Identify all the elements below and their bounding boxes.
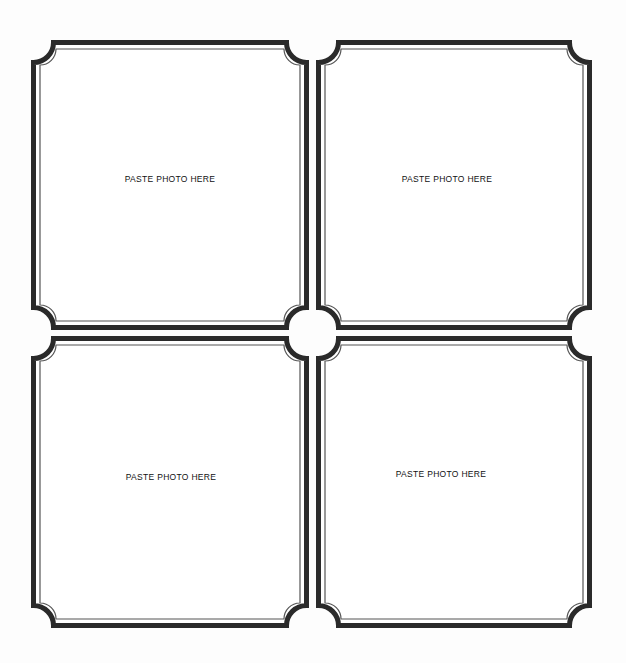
photo-frame-top-right[interactable]: PASTE PHOTO HERE [316, 40, 592, 330]
paste-photo-label: PASTE PHOTO HERE [125, 174, 215, 184]
photo-frame-top-left[interactable]: PASTE PHOTO HERE [31, 40, 309, 330]
photo-template-page: PASTE PHOTO HERE PASTE PHOTO HERE PASTE … [0, 0, 626, 663]
frame-border-icon [31, 336, 309, 628]
frame-border-icon [316, 40, 592, 330]
frame-border-icon [31, 40, 309, 330]
photo-frame-bottom-left[interactable]: PASTE PHOTO HERE [31, 336, 309, 628]
paste-photo-label: PASTE PHOTO HERE [396, 469, 486, 479]
paste-photo-label: PASTE PHOTO HERE [402, 174, 492, 184]
photo-frame-bottom-right[interactable]: PASTE PHOTO HERE [316, 336, 592, 628]
frame-border-icon [316, 336, 592, 628]
paste-photo-label: PASTE PHOTO HERE [126, 472, 216, 482]
